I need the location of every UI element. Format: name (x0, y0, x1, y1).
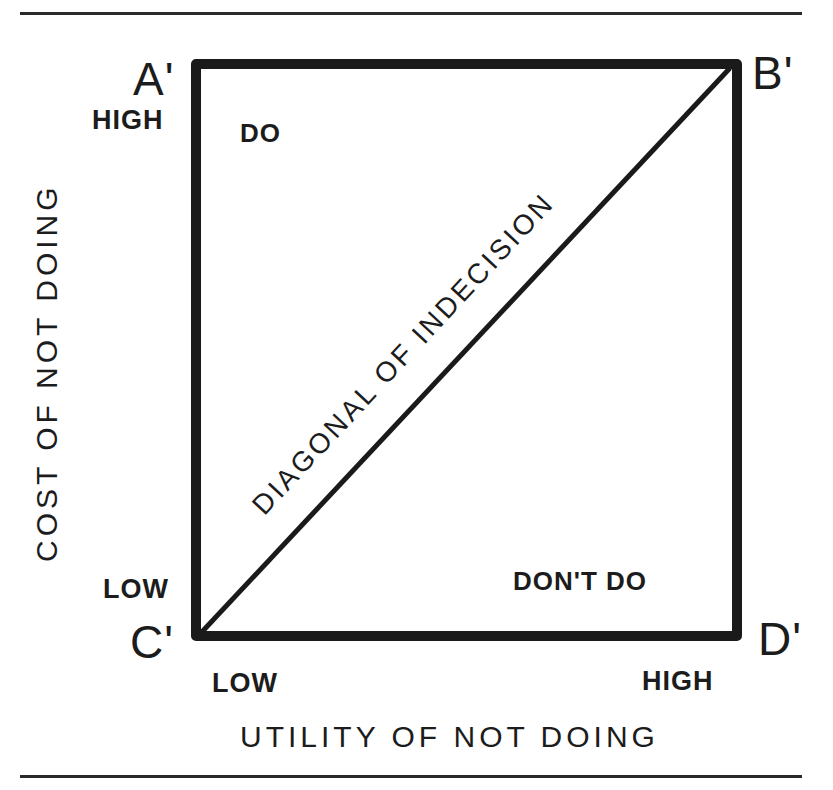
y-axis-high-label: HIGH (92, 107, 164, 134)
y-axis-title: COST OF NOT DOING (32, 183, 62, 562)
corner-c-prime: C' (130, 619, 174, 665)
y-axis-low-label: LOW (103, 576, 169, 603)
corner-a-prime: A' (133, 56, 174, 102)
x-axis-high-label: HIGH (642, 668, 714, 695)
corner-b-prime: B' (752, 50, 793, 96)
diagonal-line (200, 68, 730, 634)
corner-d-prime: D' (758, 616, 802, 662)
x-axis-title: UTILITY OF NOT DOING (240, 722, 659, 752)
x-axis-low-label: LOW (212, 670, 278, 697)
region-do-label: DO (240, 120, 281, 146)
region-dont-do-label: DON'T DO (513, 568, 647, 594)
